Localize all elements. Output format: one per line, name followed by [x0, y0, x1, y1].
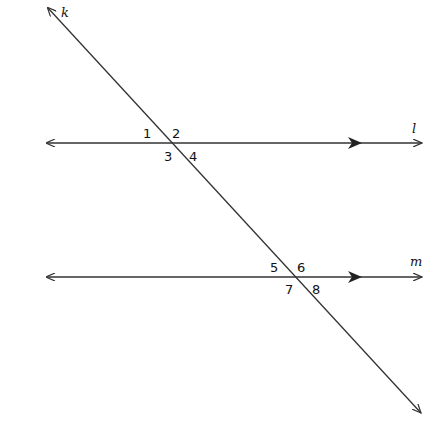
angle-label-3: 3 — [164, 149, 172, 164]
line-label-l: l — [412, 121, 416, 136]
angle-label-7: 7 — [285, 282, 293, 297]
geometry-figure: k l m 1 2 3 4 5 6 7 8 — [0, 0, 426, 423]
angle-label-1: 1 — [143, 126, 151, 141]
angle-label-6: 6 — [297, 260, 305, 275]
angle-label-4: 4 — [189, 149, 197, 164]
line-label-k: k — [61, 5, 69, 20]
diagram-canvas: k l m 1 2 3 4 5 6 7 8 — [0, 0, 426, 423]
angle-label-5: 5 — [270, 260, 278, 275]
line-label-m: m — [410, 254, 422, 269]
angle-label-2: 2 — [172, 126, 180, 141]
angle-label-8: 8 — [312, 282, 320, 297]
transversal-line-k — [48, 8, 421, 413]
